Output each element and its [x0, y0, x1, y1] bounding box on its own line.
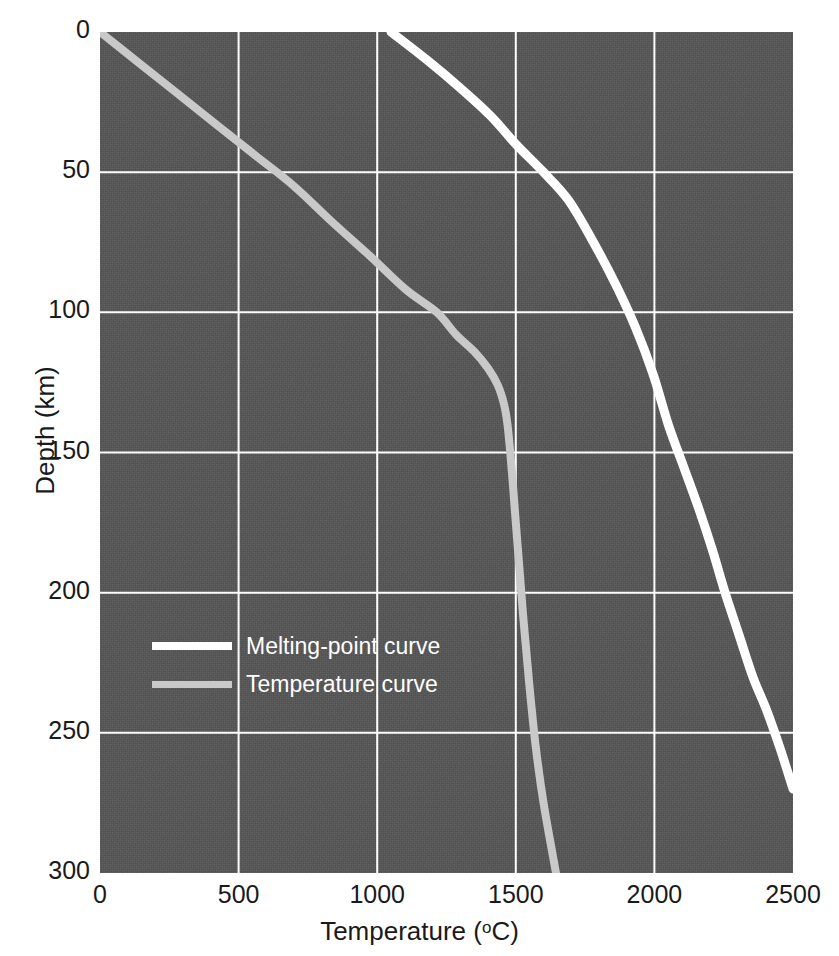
x-tick-label-0: 0 — [45, 880, 155, 909]
x-axis-title-tail: C) — [491, 916, 518, 946]
plot-svg — [100, 32, 793, 873]
legend: Melting-point curve Temperature curve — [152, 627, 482, 703]
x-tick-label-2500: 2500 — [738, 880, 839, 909]
x-tick-label-1000: 1000 — [322, 880, 432, 909]
x-tick-label-2000: 2000 — [599, 880, 709, 909]
legend-item-melting-point: Melting-point curve — [152, 627, 482, 665]
x-tick-label-1500: 1500 — [461, 880, 571, 909]
x-axis-title-text: Temperature ( — [320, 916, 482, 946]
gridlines — [100, 32, 793, 873]
legend-item-temperature: Temperature curve — [152, 665, 482, 703]
legend-label-temperature: Temperature curve — [246, 671, 438, 698]
y-tick-label-250: 250 — [4, 716, 90, 745]
legend-label-melting-point: Melting-point curve — [246, 633, 440, 660]
legend-swatch-melting-point-icon — [152, 642, 232, 650]
legend-swatch-temperature-icon — [152, 681, 232, 688]
y-axis-title: Depth (km) — [30, 281, 61, 581]
x-axis-title: Temperature (oC) — [0, 916, 839, 947]
x-tick-label-500: 500 — [184, 880, 294, 909]
y-tick-label-0: 0 — [4, 15, 90, 44]
geotherm-chart-figure: Melting-point curve Temperature curve 05… — [0, 0, 839, 956]
y-tick-label-50: 50 — [4, 155, 90, 184]
plot-area: Melting-point curve Temperature curve — [100, 32, 793, 873]
